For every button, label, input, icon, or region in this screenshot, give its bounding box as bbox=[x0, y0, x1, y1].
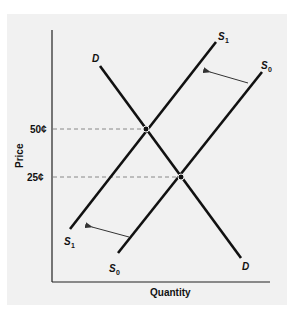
label-s1-top: S 1 bbox=[218, 31, 229, 44]
label-d-top: D bbox=[92, 53, 99, 64]
equilibrium-point-50 bbox=[143, 126, 149, 132]
shift-arrow-upper bbox=[210, 72, 248, 83]
label-d-bottom: D bbox=[242, 261, 249, 272]
label-s1-bottom: S 1 bbox=[64, 236, 75, 249]
svg-text:S: S bbox=[218, 31, 225, 42]
svg-text:1: 1 bbox=[225, 37, 229, 44]
supply-curve-s1 bbox=[70, 42, 216, 229]
svg-text:0: 0 bbox=[268, 66, 272, 73]
svg-text:0: 0 bbox=[116, 269, 120, 276]
y-axis-title: Price bbox=[14, 143, 25, 168]
y-tick-50: 50¢ bbox=[30, 124, 47, 135]
supply-curve-s0 bbox=[118, 72, 262, 253]
svg-text:S: S bbox=[109, 263, 116, 274]
shift-arrow-lower bbox=[92, 227, 129, 237]
y-tick-25: 25¢ bbox=[27, 172, 44, 183]
svg-text:S: S bbox=[64, 236, 71, 247]
label-s0-bottom: S 0 bbox=[109, 263, 120, 276]
svg-text:S: S bbox=[261, 60, 268, 71]
supply-demand-chart: 50¢ 25¢ Price Quantity D D S 1 S 0 S 1 S… bbox=[0, 0, 301, 321]
x-axis-title: Quantity bbox=[150, 287, 191, 298]
label-s0-top: S 0 bbox=[261, 60, 272, 73]
equilibrium-point-25 bbox=[178, 174, 184, 180]
svg-text:1: 1 bbox=[71, 242, 75, 249]
